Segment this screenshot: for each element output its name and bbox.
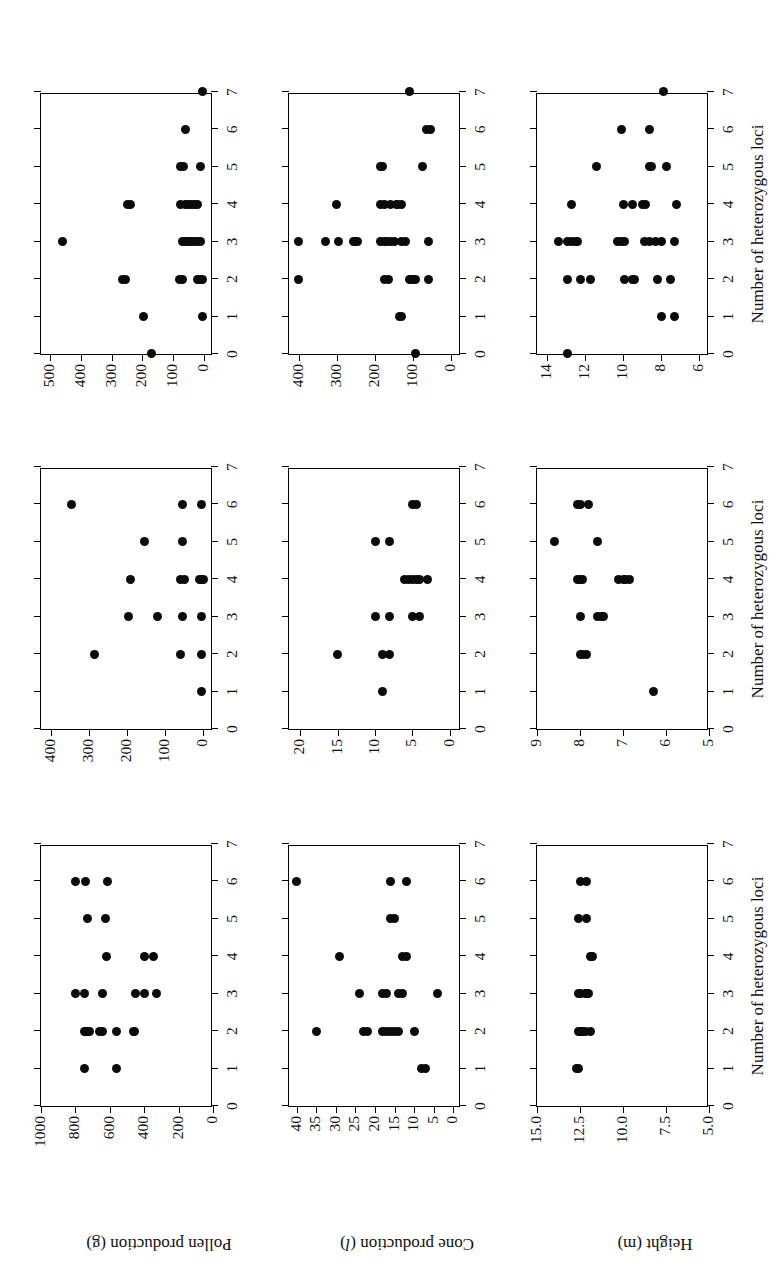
x-tick-label: 7 (223, 456, 241, 478)
x-tick-label: 4 (719, 568, 737, 590)
data-point (198, 312, 207, 321)
x-tick-label: 0 (719, 718, 737, 740)
y-tick-mark (666, 1106, 667, 1113)
x-tick-mark-top (34, 128, 41, 129)
x-tick-mark (707, 466, 714, 467)
y-tick-mark (537, 1106, 538, 1113)
data-point (334, 237, 343, 246)
data-point (112, 1027, 121, 1036)
data-point (103, 877, 112, 886)
x-tick-mark (459, 241, 466, 242)
y-tick-mark (127, 729, 128, 736)
y-tick-label: 25 (345, 1116, 363, 1170)
y-tick-mark (580, 1106, 581, 1113)
y-tick-mark (623, 729, 624, 736)
y-tick-label: 0 (441, 364, 459, 418)
x-tick-mark (459, 918, 466, 919)
y-tick-mark (375, 729, 376, 736)
x-tick-mark (459, 1030, 466, 1031)
data-point (124, 612, 133, 621)
y-tick-mark (203, 729, 204, 736)
x-tick-mark (707, 541, 714, 542)
y-tick-mark (537, 729, 538, 736)
y-tick-label: 300 (79, 739, 97, 793)
data-point (294, 237, 303, 246)
x-axis-title: Number of heterozygous loci (748, 494, 768, 704)
data-point (178, 275, 187, 284)
x-tick-mark (211, 503, 218, 504)
x-tick-mark (459, 728, 466, 729)
y-tick-mark (580, 729, 581, 736)
x-tick-mark-top (282, 918, 289, 919)
plot-frame: 010020030040050001234567 (40, 93, 212, 355)
x-tick-mark (707, 503, 714, 504)
data-point (410, 1027, 419, 1036)
data-point (178, 537, 187, 546)
y-tick-mark (41, 1106, 42, 1113)
y-tick-label: 6 (656, 739, 674, 793)
y-tick-label: 15 (385, 1116, 403, 1170)
y-tick-label: 0 (443, 1116, 461, 1170)
data-point (98, 1027, 107, 1036)
data-point (197, 687, 206, 696)
y-tick-label: 14 (537, 364, 555, 418)
x-tick-mark-top (34, 880, 41, 881)
data-point (630, 275, 639, 284)
x-tick-mark-top (34, 1030, 41, 1031)
data-point (550, 537, 559, 546)
data-point (617, 125, 626, 134)
x-tick-label: 3 (223, 231, 241, 253)
data-point (199, 575, 208, 584)
x-tick-label: 4 (223, 945, 241, 967)
x-tick-mark-top (282, 203, 289, 204)
x-tick-mark-top (34, 955, 41, 956)
data-point (563, 275, 572, 284)
data-point (402, 952, 411, 961)
data-point (147, 350, 156, 359)
data-point (415, 612, 424, 621)
data-point (355, 989, 364, 998)
data-point (181, 125, 190, 134)
data-point (401, 237, 410, 246)
x-tick-label: 4 (223, 568, 241, 590)
x-tick-mark (459, 128, 466, 129)
x-tick-mark-top (282, 541, 289, 542)
x-tick-mark (211, 843, 218, 844)
x-tick-mark (459, 843, 466, 844)
x-tick-label: 3 (471, 231, 489, 253)
data-point (659, 88, 668, 97)
data-point (179, 162, 188, 171)
x-tick-label: 0 (719, 1095, 737, 1117)
x-tick-mark-top (530, 728, 537, 729)
data-point (112, 1064, 121, 1073)
y-tick-mark (623, 354, 624, 361)
data-point (140, 537, 149, 546)
x-tick-mark (459, 1105, 466, 1106)
data-point (421, 1064, 430, 1073)
y-tick-label: 400 (289, 364, 307, 418)
x-tick-mark (459, 166, 466, 167)
chart-row-cone-production: Cone production (l)051015202530354001234… (288, 0, 526, 1275)
y-tick-label: 10 (365, 739, 383, 793)
y-tick-label: 8 (570, 739, 588, 793)
data-point (619, 200, 628, 209)
plot-frame: 051015202530354001234567 (288, 845, 460, 1107)
y-tick-label: 100 (155, 739, 173, 793)
x-tick-mark (707, 166, 714, 167)
x-tick-mark (459, 653, 466, 654)
x-tick-label: 6 (471, 870, 489, 892)
y-tick-label: 400 (71, 364, 89, 418)
x-tick-mark-top (530, 691, 537, 692)
x-tick-mark-top (282, 1030, 289, 1031)
data-point (321, 237, 330, 246)
x-tick-label: 1 (719, 306, 737, 328)
x-tick-label: 4 (223, 193, 241, 215)
x-tick-mark-top (282, 278, 289, 279)
scatter-panel-height-panel-1: 5.07.510.012.515.001234567 (536, 845, 708, 1107)
data-point (98, 989, 107, 998)
x-tick-mark (211, 993, 218, 994)
data-point (196, 237, 205, 246)
x-tick-label: 2 (223, 268, 241, 290)
x-tick-mark (211, 203, 218, 204)
data-point (149, 952, 158, 961)
